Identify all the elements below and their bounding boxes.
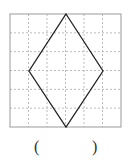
grid-lines <box>10 14 121 127</box>
open-paren: ( <box>34 139 39 155</box>
close-paren: ) <box>92 139 97 155</box>
grid-figure <box>0 0 128 135</box>
